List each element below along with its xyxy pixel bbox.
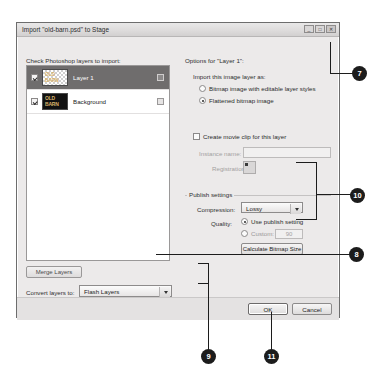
layer-type-icon	[157, 98, 164, 105]
ok-button[interactable]: OK	[248, 303, 288, 315]
thumb-text-bottom: BARN	[45, 102, 59, 107]
registration-grid-icon[interactable]	[243, 161, 256, 174]
radio-button[interactable]	[199, 85, 206, 92]
dialog-title: Import "old-barn.psd" to Stage	[22, 26, 109, 33]
callout-leader-11-v	[271, 312, 272, 350]
layer-checkbox[interactable]	[31, 98, 38, 105]
import-as-label: Import this image layer as:	[193, 73, 266, 80]
callout-leader-7-h	[330, 73, 353, 74]
create-movieclip-row[interactable]: Create movie clip for this layer	[193, 133, 286, 140]
layer-thumbnail: OLD BARN	[42, 93, 68, 110]
window-buttons: _ □ ✕	[304, 25, 336, 33]
layer-checkbox[interactable]	[31, 74, 38, 81]
layers-list[interactable]: OLD BARN Layer 1 OLD BARN Background	[26, 65, 170, 261]
instance-name-input[interactable]	[243, 147, 331, 158]
radio-label: Custom:	[251, 230, 274, 237]
merge-layers-button[interactable]: Merge Layers	[26, 266, 82, 278]
callout-leader-9-v	[208, 272, 209, 350]
callout-leader-7-v	[330, 42, 331, 73]
layer-type-icon	[157, 74, 164, 81]
radio-editable-layer-styles[interactable]: Bitmap image with editable layer styles	[199, 85, 316, 92]
dialog-body: Check Photoshop layers to import: OLD BA…	[17, 37, 339, 320]
compression-value: Lossy	[246, 205, 262, 212]
radio-button[interactable]	[241, 230, 248, 237]
import-psd-dialog: Import "old-barn.psd" to Stage _ □ ✕ Che…	[16, 22, 340, 318]
layers-heading: Check Photoshop layers to import:	[26, 57, 121, 64]
instance-name-label: Instance name:	[199, 150, 241, 157]
callout-leader-8-h	[156, 254, 350, 255]
radio-label: Flattened bitmap image	[209, 97, 274, 104]
create-movieclip-checkbox[interactable]	[193, 133, 200, 140]
radio-button[interactable]	[199, 97, 206, 104]
custom-quality-input[interactable]: 90	[275, 229, 303, 239]
convert-layers-value: Flash Layers	[84, 288, 119, 295]
publish-settings-title: Publish settings	[187, 191, 234, 198]
compression-select[interactable]: Lossy	[241, 202, 303, 213]
list-item[interactable]: OLD BARN Layer 1	[27, 66, 169, 90]
callout-9: 9	[201, 349, 216, 364]
callout-8: 8	[349, 247, 364, 262]
callout-bracket-10	[296, 162, 317, 220]
dialog-footer: OK Cancel	[17, 297, 339, 320]
convert-layers-label: Convert layers to:	[26, 289, 75, 296]
radio-button[interactable]	[241, 218, 248, 225]
callout-7: 7	[352, 66, 367, 81]
radio-label: Bitmap image with editable layer styles	[209, 85, 316, 92]
screenshot-root: Import "old-barn.psd" to Stage _ □ ✕ Che…	[0, 0, 388, 392]
thumb-text-bottom: BARN	[45, 78, 59, 83]
list-item[interactable]: OLD BARN Background	[27, 90, 169, 114]
cancel-button[interactable]: Cancel	[292, 303, 332, 315]
convert-layers-select[interactable]: Flash Layers	[79, 285, 172, 297]
registration-label: Registration:	[212, 165, 247, 172]
maximize-icon[interactable]: □	[315, 25, 325, 33]
layer-thumbnail: OLD BARN	[42, 69, 68, 86]
callout-11: 11	[264, 349, 279, 364]
radio-flattened-bitmap[interactable]: Flattened bitmap image	[199, 97, 274, 104]
callout-10: 10	[350, 188, 365, 203]
radio-custom-quality[interactable]: Custom:	[241, 230, 274, 237]
quality-label: Quality:	[211, 220, 232, 227]
compression-label: Compression:	[197, 206, 235, 213]
chevron-down-icon[interactable]	[159, 287, 170, 297]
callout-leader-10-h	[316, 194, 352, 195]
dialog-titlebar[interactable]: Import "old-barn.psd" to Stage _ □ ✕	[17, 23, 339, 37]
close-icon[interactable]: ✕	[326, 25, 336, 33]
layer-name: Background	[73, 98, 106, 105]
radio-use-publish-setting[interactable]: Use publish setting	[241, 218, 303, 225]
create-movieclip-label: Create movie clip for this layer	[203, 133, 286, 140]
options-heading: Options for "Layer 1":	[185, 57, 244, 64]
layer-name: Layer 1	[73, 74, 94, 81]
minimize-icon[interactable]: _	[304, 25, 314, 33]
